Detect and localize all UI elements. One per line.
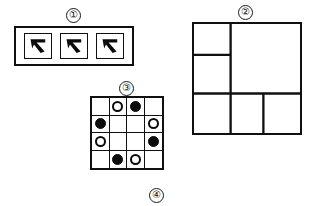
grid-cell bbox=[92, 133, 110, 151]
figure-2-outer-square bbox=[192, 22, 302, 135]
grid-cell bbox=[92, 98, 110, 116]
grid-cell bbox=[127, 116, 145, 134]
grid-cell bbox=[92, 151, 110, 169]
figure-1-outer-rectangle bbox=[14, 26, 134, 66]
figure-2-partition-lines bbox=[194, 24, 300, 133]
bent-arrow-glyph bbox=[100, 37, 120, 55]
grid-cell bbox=[127, 133, 145, 151]
disc-r4c3 bbox=[130, 154, 141, 165]
figure-1-cell-2 bbox=[60, 33, 88, 59]
grid-cell bbox=[145, 98, 163, 116]
disc-r2c1 bbox=[95, 118, 106, 129]
diagram-canvas: ① bbox=[0, 0, 314, 206]
grid-cell bbox=[110, 98, 128, 116]
disc-r3c4 bbox=[148, 136, 159, 147]
figure-1-cell-1 bbox=[24, 33, 52, 59]
grid-cell bbox=[145, 116, 163, 134]
figure-3-label: ③ bbox=[119, 81, 134, 96]
bent-arrow-glyph bbox=[28, 37, 48, 55]
grid-cell bbox=[110, 151, 128, 169]
grid-cell bbox=[127, 151, 145, 169]
disc-r1c2 bbox=[112, 101, 123, 112]
grid-cell bbox=[92, 116, 110, 134]
bent-arrow-glyph bbox=[64, 37, 84, 55]
figure-3-grid bbox=[90, 96, 164, 170]
grid-cell bbox=[110, 133, 128, 151]
figure-4-label: ④ bbox=[149, 188, 164, 203]
disc-r4c2 bbox=[112, 154, 123, 165]
disc-r3c1 bbox=[95, 136, 106, 147]
figure-1-label: ① bbox=[66, 8, 81, 23]
grid-cell bbox=[145, 133, 163, 151]
disc-r1c3 bbox=[130, 101, 141, 112]
figure-1-cell-3 bbox=[96, 33, 124, 59]
grid-cell bbox=[110, 116, 128, 134]
figure-2-label: ② bbox=[238, 5, 253, 20]
disc-r2c4 bbox=[148, 118, 159, 129]
figure-1-cell-row bbox=[16, 28, 132, 64]
grid-cell bbox=[127, 98, 145, 116]
grid-cell bbox=[145, 151, 163, 169]
